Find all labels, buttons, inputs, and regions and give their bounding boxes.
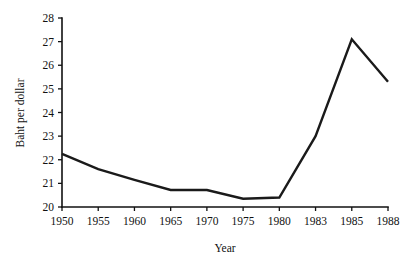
y-tick-label: 23 — [43, 130, 55, 142]
y-tick-label: 21 — [43, 177, 55, 189]
y-axis-ticks: 202122232425262728 — [43, 12, 63, 213]
x-tick-label: 1960 — [123, 215, 146, 227]
x-tick-label: 1950 — [51, 215, 74, 227]
x-tick-label: 1975 — [232, 215, 255, 227]
x-tick-label: 1988 — [377, 215, 400, 227]
y-tick-label: 28 — [43, 12, 55, 24]
line-chart: 202122232425262728 195019551960196519701… — [0, 0, 416, 266]
x-tick-label: 1980 — [268, 215, 291, 227]
chart-figure: 202122232425262728 195019551960196519701… — [0, 0, 416, 266]
y-axis-title: Baht per dollar — [14, 78, 27, 147]
x-axis-title: Year — [214, 242, 235, 254]
y-tick-label: 22 — [43, 154, 55, 166]
x-tick-label: 1983 — [304, 215, 327, 227]
x-tick-label: 1970 — [195, 215, 218, 227]
x-tick-label: 1955 — [87, 215, 110, 227]
x-tick-label: 1985 — [340, 215, 363, 227]
y-tick-label: 20 — [43, 201, 55, 213]
x-tick-label: 1965 — [159, 215, 182, 227]
y-tick-label: 24 — [43, 107, 55, 119]
y-tick-label: 26 — [43, 59, 55, 71]
y-tick-label: 27 — [43, 36, 55, 48]
y-tick-label: 25 — [43, 83, 55, 95]
